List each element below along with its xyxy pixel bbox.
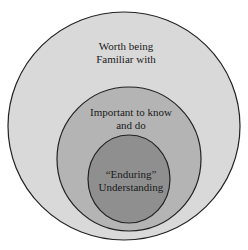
inner-label: “Enduring” Understanding xyxy=(79,168,183,194)
outer-label: Worth being Familiar with xyxy=(74,40,178,66)
outer-label-line1: Worth being xyxy=(74,40,178,53)
outer-label-line2: Familiar with xyxy=(74,53,178,66)
middle-label-line2: and do xyxy=(79,119,183,132)
inner-label-line2: Understanding xyxy=(79,181,183,194)
inner-label-line1: “Enduring” xyxy=(79,168,183,181)
middle-label-line1: Important to know xyxy=(79,106,183,119)
middle-label: Important to know and do xyxy=(79,106,183,132)
